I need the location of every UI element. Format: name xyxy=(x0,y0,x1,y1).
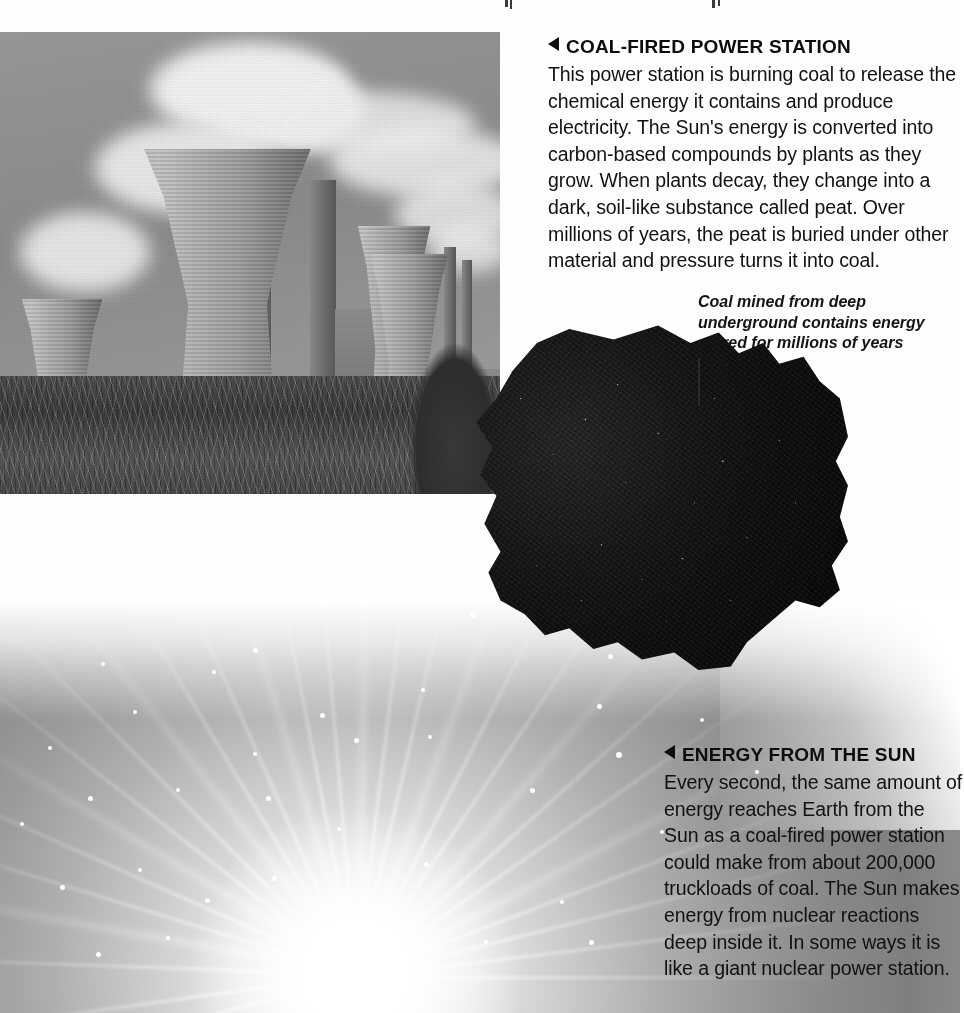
sun-section-body: Every second, the same amount of energy … xyxy=(664,769,964,982)
left-triangle-icon xyxy=(664,745,675,759)
coal-caption: Coal mined from deep underground contain… xyxy=(698,292,948,354)
caption-leader-line xyxy=(698,358,700,406)
coal-fired-power-station-section: COAL-FIRED POWER STATION This power stat… xyxy=(548,36,960,274)
power-station-photo xyxy=(0,32,500,494)
sun-section-title-text: ENERGY FROM THE SUN xyxy=(682,744,916,765)
coal-section-title: COAL-FIRED POWER STATION xyxy=(548,36,960,58)
sun-section-title: ENERGY FROM THE SUN xyxy=(664,744,964,766)
coal-section-body: This power station is burning coal to re… xyxy=(548,61,960,274)
cropped-text-remnant xyxy=(0,0,960,14)
energy-from-the-sun-section: ENERGY FROM THE SUN Every second, the sa… xyxy=(664,744,964,982)
left-triangle-icon xyxy=(548,37,559,51)
coal-section-title-text: COAL-FIRED POWER STATION xyxy=(566,36,851,57)
photo-grain xyxy=(0,32,500,494)
